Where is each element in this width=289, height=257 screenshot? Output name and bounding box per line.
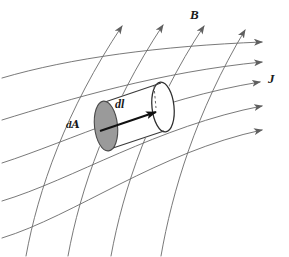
magnetic-flux-diagram: B J dl dA — [0, 0, 289, 257]
flux-tube — [92, 81, 177, 152]
dA-label-a: A — [72, 118, 80, 130]
j-field-line — [2, 42, 262, 78]
b-field-line — [161, 30, 245, 256]
dA-label: dA — [66, 119, 80, 130]
j-field-line — [2, 130, 262, 238]
current-density-label: J — [268, 72, 275, 85]
b-field-label: B — [190, 8, 199, 21]
dl-label-l: l — [121, 97, 124, 111]
diagram-canvas — [0, 0, 289, 257]
dl-label: dl — [115, 98, 124, 110]
